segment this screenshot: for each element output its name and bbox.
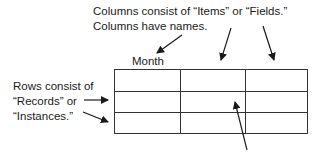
- arrow-icon: [235, 102, 247, 150]
- arrows-layer: [0, 0, 322, 158]
- arrow-icon: [221, 28, 231, 60]
- arrow-icon: [263, 26, 274, 60]
- arrow-icon: [83, 112, 108, 122]
- arrow-icon: [157, 35, 182, 53]
